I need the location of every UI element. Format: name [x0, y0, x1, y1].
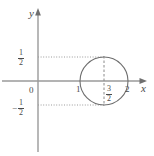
math-figure-circle: y x 0 1 2 − 1 2 1 2 3 2 — [0, 0, 154, 156]
y-axis-label: y — [29, 8, 34, 19]
y-tick-label-negative-half: − 1 2 — [12, 99, 24, 117]
fraction-denominator: 2 — [18, 58, 24, 67]
y-axis-arrow-icon — [35, 8, 41, 16]
minus-sign: − — [12, 104, 17, 113]
figure-canvas — [0, 0, 154, 156]
fraction-denominator: 2 — [18, 108, 24, 117]
fraction-numerator: 1 — [18, 49, 24, 57]
y-tick-label-positive-half: 1 2 — [18, 49, 24, 67]
x-axis-label: x — [141, 83, 146, 94]
x-tick-label-one: 1 — [76, 85, 81, 94]
fraction-numerator: 3 — [106, 85, 112, 93]
x-tick-label-two: 2 — [125, 85, 130, 94]
fraction-one-half: 1 2 — [18, 99, 24, 117]
center-label-three-halves: 3 2 — [106, 85, 112, 103]
fraction-denominator: 2 — [106, 94, 112, 103]
fraction-three-halves: 3 2 — [106, 85, 112, 103]
fraction-numerator: 1 — [18, 99, 24, 107]
origin-label: 0 — [29, 86, 34, 95]
fraction-one-half: 1 2 — [18, 49, 24, 67]
